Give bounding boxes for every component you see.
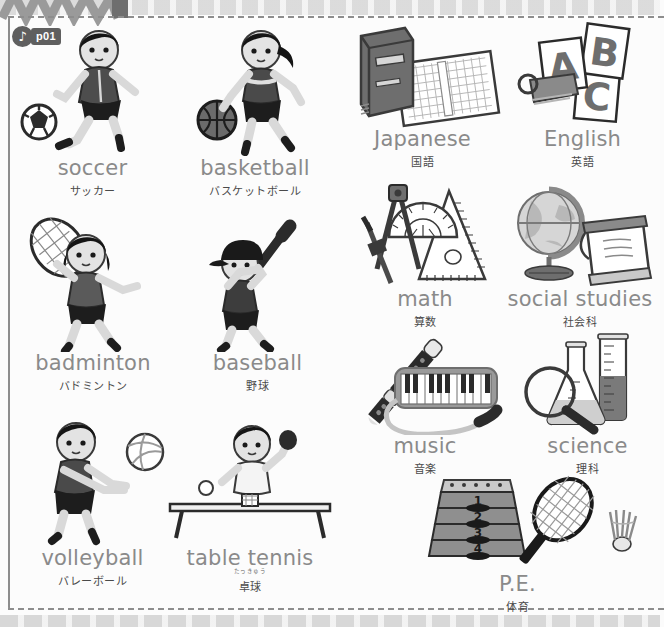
badminton-player-illustration <box>11 212 176 352</box>
vocab-label-en: social studies <box>508 288 653 310</box>
vocab-item-social-studies[interactable]: social studies 社会科 <box>500 183 660 329</box>
abc-flashcards-illustration: C B A <box>508 18 658 128</box>
vocab-item-pe[interactable]: 1 2 3 4 <box>395 468 640 614</box>
vocab-label-en: basketball <box>200 157 310 179</box>
audio-track-id: p01 <box>31 28 61 45</box>
vocab-item-music[interactable]: music 音楽 <box>340 330 510 476</box>
volleyball-player-illustration <box>8 412 178 547</box>
recorder-and-melodica-illustration <box>343 330 508 435</box>
vocab-label-en: music <box>393 435 456 457</box>
svg-text:4: 4 <box>473 542 481 556</box>
vocab-label-en: baseball <box>213 352 303 374</box>
vocab-label-en: badminton <box>35 352 150 374</box>
vocab-label-ja: 卓球 <box>239 581 262 594</box>
book-and-manuscript-paper-illustration <box>343 18 503 128</box>
audio-track-badge[interactable]: ♪ p01 <box>12 26 61 47</box>
vocab-label-ja-wrap: たっきゅう 卓球 <box>234 569 267 595</box>
vocab-label-en: math <box>397 288 453 310</box>
vocab-item-japanese[interactable]: Japanese 国語 <box>340 18 505 169</box>
vocab-label-en: Japanese <box>374 128 471 150</box>
svg-text:1: 1 <box>473 494 481 508</box>
vocab-item-science[interactable]: science 理科 <box>515 330 660 476</box>
vocab-item-english[interactable]: C B A English 英語 <box>505 18 660 169</box>
baseball-player-illustration <box>178 212 338 352</box>
vocab-label-ja: 体育 <box>506 598 529 614</box>
vocab-label-en: volleyball <box>41 547 143 569</box>
flask-cylinder-magnifier-illustration <box>518 330 658 435</box>
vocab-item-table-tennis[interactable]: table tennis たっきゅう 卓球 <box>160 412 340 595</box>
vocab-item-math[interactable]: math 算数 <box>350 183 500 329</box>
vocab-label-ja: バドミントン <box>59 377 128 393</box>
vocab-item-baseball[interactable]: baseball 野球 <box>175 212 340 393</box>
sports-section: soccer サッカー <box>0 22 340 612</box>
svg-text:3: 3 <box>473 526 481 540</box>
subjects-section: Japanese 国語 C B A <box>340 18 660 618</box>
vocab-label-en: table tennis <box>187 547 314 569</box>
vocab-label-en: science <box>547 435 627 457</box>
vocab-label-ja: バレーボール <box>58 572 127 588</box>
vocab-label-ja: 算数 <box>414 313 437 329</box>
vocab-label-ja: バスケットボール <box>209 182 301 198</box>
vocab-label-ja: 社会科 <box>563 313 598 329</box>
vocab-label-ja: 英語 <box>571 153 594 169</box>
globe-and-scroll-map-illustration <box>503 183 658 288</box>
vocab-label-en: soccer <box>58 157 128 179</box>
vocab-label-ja: 野球 <box>246 377 269 393</box>
compass-protractor-ruler-illustration <box>353 183 498 288</box>
vaulting-box-racket-shuttlecock-illustration: 1 2 3 4 <box>398 468 638 573</box>
svg-text:B: B <box>587 29 622 77</box>
vocab-item-soccer[interactable]: soccer サッカー <box>10 22 175 198</box>
vocab-label-en: English <box>544 128 621 150</box>
vocab-label-ja: サッカー <box>70 182 116 198</box>
vocab-label-en: P.E. <box>499 573 536 595</box>
music-note-icon: ♪ <box>12 26 33 47</box>
vocab-item-badminton[interactable]: badminton バドミントン <box>8 212 178 393</box>
table-tennis-player-illustration <box>160 412 340 547</box>
basketball-player-illustration <box>173 22 338 157</box>
svg-text:2: 2 <box>473 510 481 524</box>
vocab-label-ja: 国語 <box>411 153 434 169</box>
vocab-furigana: たっきゅう <box>234 569 267 575</box>
vocab-item-basketball[interactable]: basketball バスケットボール <box>170 22 340 198</box>
vocab-item-volleyball[interactable]: volleyball バレーボール <box>5 412 180 588</box>
